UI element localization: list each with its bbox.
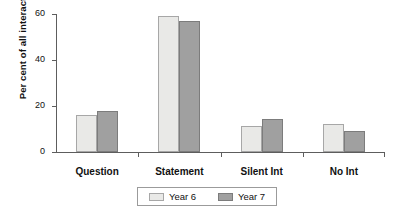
y-axis-tick: 0	[52, 152, 56, 153]
bar-no-int-year-6	[323, 124, 344, 152]
x-axis-category-label: Silent Int	[241, 166, 283, 177]
bar-statement-year-6	[158, 16, 179, 152]
y-axis-title: Per cent of all interactions	[17, 0, 28, 109]
legend-label: Year 7	[238, 191, 265, 202]
legend-entry-year-6[interactable]: Year 6	[149, 191, 196, 202]
x-axis-category-label: No Int	[330, 166, 358, 177]
x-axis-category-label: Statement	[155, 166, 203, 177]
y-axis-tick-label: 40	[35, 54, 45, 64]
y-axis-tick-label: 20	[35, 100, 45, 110]
legend: Year 6Year 7	[137, 187, 277, 206]
legend-swatch-icon	[149, 193, 164, 201]
bar-silent-int-year-6	[241, 126, 262, 152]
bar-question-year-7	[97, 111, 118, 152]
plot-area: 0204060 QuestionStatementSilent IntNo In…	[56, 14, 385, 152]
legend-swatch-icon	[218, 193, 233, 201]
y-axis-line	[56, 14, 57, 153]
bar-no-int-year-7	[344, 131, 365, 152]
bar-statement-year-7	[179, 21, 200, 152]
x-axis-tick	[138, 153, 139, 157]
x-axis-tick	[384, 153, 385, 157]
x-axis-tick	[303, 153, 304, 157]
bar-silent-int-year-7	[262, 119, 283, 152]
bar-question-year-6	[76, 115, 97, 152]
legend-entry-year-7[interactable]: Year 7	[218, 191, 265, 202]
y-axis-tick-label: 0	[40, 146, 45, 156]
bar-chart: Per cent of all interactions 0204060 Que…	[0, 0, 400, 220]
y-axis-tick: 20	[52, 106, 56, 107]
y-axis-tick: 60	[52, 14, 56, 15]
x-axis-tick	[221, 153, 222, 157]
legend-label: Year 6	[169, 191, 196, 202]
x-axis-category-label: Question	[75, 166, 118, 177]
y-axis-tick: 40	[52, 60, 56, 61]
y-axis-tick-label: 60	[35, 8, 45, 18]
